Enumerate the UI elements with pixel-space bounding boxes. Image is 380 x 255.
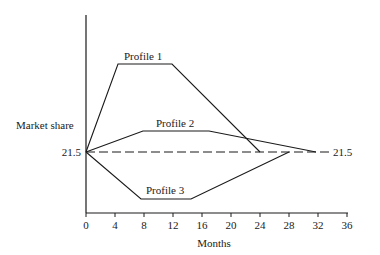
x-axis-title: Months [197,237,231,249]
y-axis-title: Market share [16,119,74,131]
profile-2-line [86,131,316,152]
profile-1-line [86,64,260,152]
x-tick-32: 32 [313,219,324,231]
profile-1-label: Profile 1 [124,50,162,62]
x-tick-8: 8 [141,219,147,231]
x-tick-24: 24 [255,219,267,231]
market-share-chart: 0 4 8 12 16 20 24 28 32 36 Months Market… [0,0,380,255]
x-tick-0: 0 [83,219,89,231]
x-tick-16: 16 [197,219,209,231]
profile-2-label: Profile 2 [156,117,194,129]
x-tick-20: 20 [226,219,238,231]
baseline-label-right: 21.5 [333,146,353,158]
x-tick-12: 12 [168,219,179,231]
profile-3-line [86,152,289,199]
x-tick-28: 28 [284,219,296,231]
x-tick-marks [86,213,347,217]
x-tick-labels: 0 4 8 12 16 20 24 28 32 36 [83,219,353,231]
x-tick-4: 4 [112,219,118,231]
baseline-label-left: 21.5 [62,146,82,158]
profile-3-label: Profile 3 [146,184,185,196]
x-tick-36: 36 [342,219,354,231]
